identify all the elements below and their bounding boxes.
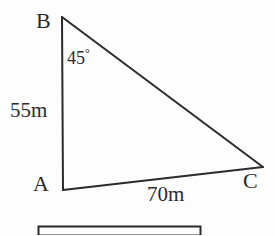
triangle-side-ab — [62, 17, 63, 190]
triangle-side-bc — [62, 17, 263, 167]
vertex-label-a: A — [33, 173, 49, 195]
triangle-diagram: B A C 55m 70m 45° — [0, 0, 275, 235]
bottom-bar-cropped — [39, 227, 201, 236]
side-length-label-ab: 55m — [10, 100, 47, 121]
vertex-label-c: C — [243, 170, 258, 192]
angle-value-b: 45 — [67, 48, 85, 68]
vertex-label-b: B — [36, 10, 51, 32]
angle-label-b: 45° — [67, 47, 90, 67]
side-length-label-ac: 70m — [147, 184, 184, 205]
degree-symbol-icon: ° — [85, 46, 90, 60]
